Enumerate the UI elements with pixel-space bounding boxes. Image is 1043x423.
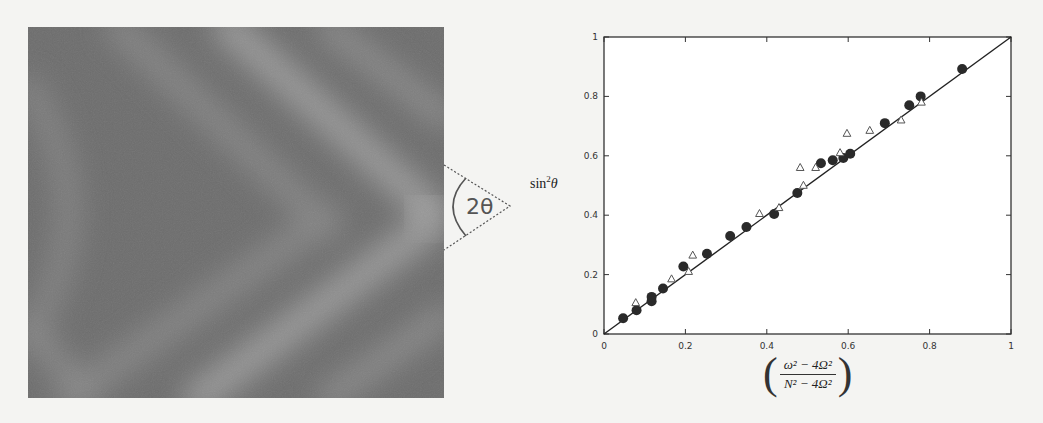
circle-marker (904, 100, 914, 110)
circle-marker (828, 155, 838, 165)
circle-marker (702, 249, 712, 259)
x-label-denominator: N² − 4Ω² (780, 375, 836, 392)
y-tick-label: 0.8 (584, 91, 599, 101)
circle-marker (647, 292, 657, 302)
x-tick-label: 0.2 (678, 341, 692, 351)
right-paren: ) (838, 354, 853, 394)
circle-marker (957, 64, 967, 74)
circle-marker (725, 231, 735, 241)
circle-marker (741, 222, 751, 232)
y-tick-label: 1 (592, 32, 598, 42)
circle-marker (632, 305, 642, 315)
x-tick-label: 0 (601, 341, 607, 351)
chart-svg: 00.20.40.60.8100.20.40.60.81 (0, 0, 1043, 423)
y-axis-label: sin2θ (530, 174, 558, 192)
x-label-numerator: ω² − 4Ω² (780, 357, 836, 375)
circle-marker (792, 188, 802, 198)
x-axis-label: ( ω² − 4Ω² N² − 4Ω² ) (763, 354, 852, 394)
left-paren: ( (763, 354, 778, 394)
x-label-fraction: ω² − 4Ω² N² − 4Ω² (780, 357, 836, 392)
circle-marker (880, 118, 890, 128)
y-tick-label: 0.4 (584, 210, 599, 220)
circle-marker (845, 149, 855, 159)
y-tick-label: 0 (592, 329, 598, 339)
y-tick-label: 0.2 (584, 270, 598, 280)
circle-marker (658, 284, 668, 294)
x-tick-label: 1 (1008, 341, 1014, 351)
y-tick-label: 0.6 (584, 151, 599, 161)
x-tick-label: 0.8 (922, 341, 937, 351)
circle-marker (618, 313, 628, 323)
scatter-chart: 00.20.40.60.8100.20.40.60.81 sin2θ ( ω² … (0, 0, 1043, 423)
